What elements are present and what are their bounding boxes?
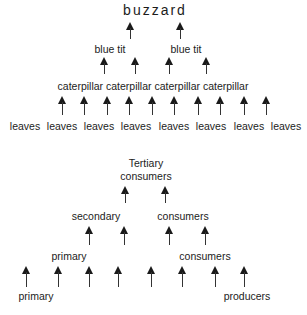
up-arrow-icon	[161, 186, 169, 203]
up-arrow-icon	[170, 96, 178, 115]
up-arrow-icon	[201, 226, 209, 245]
up-arrow-icon	[54, 266, 62, 287]
buzzard-label: buzzard	[123, 2, 187, 18]
tertiary-consumers-label: consumers	[120, 170, 171, 182]
up-arrow-icon	[176, 22, 184, 39]
up-arrow-icon	[100, 57, 108, 74]
up-arrow-icon	[147, 266, 155, 287]
up-arrow-icon	[211, 266, 219, 287]
leaves-label: leaves	[234, 120, 264, 132]
up-arrow-icon	[194, 96, 202, 115]
up-arrow-icon	[22, 266, 30, 287]
blue-tit-label: blue tit	[171, 43, 202, 55]
up-arrow-icon	[120, 226, 128, 245]
up-arrow-icon	[165, 57, 173, 74]
leaves-label: leaves	[47, 120, 77, 132]
blue-tit-label: blue tit	[95, 43, 126, 55]
primary-consumers-label: consumers	[179, 250, 230, 262]
leaves-label: leaves	[196, 120, 226, 132]
leaves-label: leaves	[159, 120, 189, 132]
caterpillar-row: caterpillar caterpillar caterpillar cate…	[58, 80, 249, 92]
up-arrow-icon	[202, 57, 210, 74]
up-arrow-icon	[126, 22, 134, 39]
up-arrow-icon	[178, 266, 186, 287]
up-arrow-icon	[125, 96, 133, 115]
up-arrow-icon	[114, 266, 122, 287]
up-arrow-icon	[131, 57, 139, 74]
secondary-consumers-label: consumers	[157, 210, 208, 222]
secondary-label: secondary	[72, 210, 120, 222]
up-arrow-icon	[80, 96, 88, 115]
producers-primary-label: primary	[18, 290, 53, 302]
up-arrow-icon	[85, 266, 93, 287]
leaves-label: leaves	[121, 120, 151, 132]
up-arrow-icon	[103, 96, 111, 115]
up-arrow-icon	[85, 226, 93, 245]
leaves-label: leaves	[10, 120, 40, 132]
up-arrow-icon	[262, 96, 270, 115]
up-arrow-icon	[148, 96, 156, 115]
up-arrow-icon	[240, 266, 248, 287]
producers-label: producers	[224, 290, 271, 302]
leaves-label: leaves	[271, 120, 301, 132]
up-arrow-icon	[165, 226, 173, 245]
up-arrow-icon	[121, 186, 129, 203]
primary-label: primary	[51, 250, 86, 262]
up-arrow-icon	[240, 96, 248, 115]
tertiary-label: Tertiary	[129, 157, 163, 169]
up-arrow-icon	[216, 96, 224, 115]
up-arrow-icon	[58, 96, 66, 115]
leaves-label: leaves	[84, 120, 114, 132]
